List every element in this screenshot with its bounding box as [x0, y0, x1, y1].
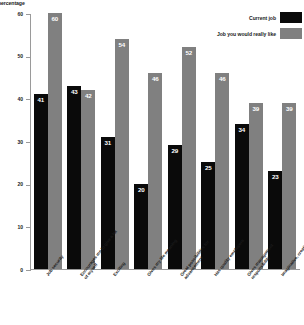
bar[interactable]: 46	[148, 73, 162, 269]
y-axis-tick: 0	[26, 270, 31, 271]
bar[interactable]: 41	[34, 94, 48, 269]
plot-area: 0102030405060 41604342315420462952254634…	[30, 14, 300, 270]
bar-value-label: 60	[48, 15, 62, 22]
y-axis-title: percentage	[0, 0, 25, 6]
y-axis-tick-label: 20	[17, 181, 23, 187]
bar-value-label: 52	[182, 49, 196, 56]
bar[interactable]: 39	[249, 103, 263, 269]
bar-value-label: 42	[81, 92, 95, 99]
bar-value-label: 41	[34, 96, 48, 103]
bar[interactable]: 39	[282, 103, 296, 269]
bar-value-label: 46	[148, 75, 162, 82]
bar-value-label: 31	[101, 139, 115, 146]
bar-groups: 41604342315420462952254634392339	[31, 14, 299, 269]
bar-value-label: 43	[67, 88, 81, 95]
bar-value-label: 39	[249, 105, 263, 112]
bar-value-label: 29	[168, 147, 182, 154]
x-axis-category-labels: Job securityEncourages me to give a lot …	[30, 272, 300, 325]
bar-value-label: 34	[235, 126, 249, 133]
bar-group: 4160	[31, 14, 65, 269]
y-axis-tick-label: 60	[17, 11, 23, 17]
y-axis-tick-label: 30	[17, 139, 23, 145]
chart-container: percentage Current jobJob you would real…	[0, 0, 304, 325]
y-axis-tick-label: 10	[17, 224, 23, 230]
y-axis-tick-label: 40	[17, 96, 23, 102]
bar-value-label: 25	[201, 164, 215, 171]
bar-value-label: 20	[134, 186, 148, 193]
y-axis-tick-label: 50	[17, 53, 23, 59]
bar-value-label: 23	[268, 173, 282, 180]
y-axis-tick-label: 0	[20, 267, 23, 273]
bar[interactable]: 20	[134, 184, 148, 269]
bar-value-label: 54	[115, 41, 129, 48]
bar[interactable]: 52	[182, 47, 196, 269]
bar-value-label: 46	[215, 75, 229, 82]
bar[interactable]: 60	[48, 13, 62, 269]
bar[interactable]: 42	[81, 90, 95, 269]
bar-value-label: 39	[282, 105, 296, 112]
